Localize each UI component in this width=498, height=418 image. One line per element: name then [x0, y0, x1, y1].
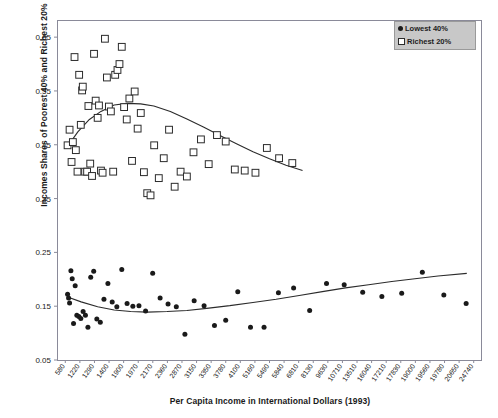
x-tick-label: 1220 [66, 362, 81, 379]
data-point-richest-20 [110, 168, 117, 175]
x-tick-label: 3780 [212, 362, 227, 379]
data-point-richest-20 [94, 114, 101, 121]
x-tick-label: 1290 [81, 362, 96, 379]
data-point-lowest-40 [464, 301, 469, 306]
data-point-richest-20 [171, 183, 178, 190]
data-point-lowest-40 [360, 290, 365, 295]
data-point-lowest-40 [114, 304, 119, 309]
data-point-richest-20 [96, 102, 103, 109]
data-point-richest-20 [116, 61, 123, 68]
data-point-richest-20 [151, 142, 158, 149]
data-point-lowest-40 [262, 325, 267, 330]
open-square-icon [398, 38, 405, 45]
data-point-richest-20 [77, 121, 84, 128]
data-point-lowest-40 [276, 290, 281, 295]
data-point-richest-20 [131, 88, 138, 95]
data-point-richest-20 [99, 169, 106, 176]
x-tick-label: 3350 [197, 362, 212, 379]
data-point-richest-20 [89, 173, 96, 180]
filled-circle-icon [398, 26, 403, 31]
data-point-lowest-40 [125, 301, 130, 306]
data-point-richest-20 [263, 145, 270, 152]
x-tick-label: 2170 [139, 362, 154, 379]
data-point-richest-20 [72, 147, 79, 154]
data-point-lowest-40 [235, 289, 240, 294]
x-tick-label: 580 [54, 362, 66, 376]
x-tick-label: 5160 [241, 362, 256, 379]
data-point-lowest-40 [73, 283, 78, 288]
x-tick-label: 3150 [183, 362, 198, 379]
data-point-richest-20 [137, 110, 144, 117]
data-point-lowest-40 [174, 304, 179, 309]
y-tick-label: 0.15 [35, 302, 51, 311]
data-point-lowest-40 [399, 291, 404, 296]
data-point-richest-20 [160, 155, 167, 162]
data-point-richest-20 [155, 175, 162, 182]
x-tick-label: 1970 [124, 362, 139, 379]
x-tick-label: 4100 [226, 362, 241, 379]
data-point-lowest-40 [212, 323, 217, 328]
data-point-richest-20 [102, 35, 109, 42]
data-point-richest-20 [85, 103, 92, 110]
data-point-richest-20 [231, 166, 238, 173]
data-point-richest-20 [71, 54, 78, 61]
data-point-richest-20 [66, 126, 73, 133]
data-point-richest-20 [91, 50, 98, 57]
data-point-richest-20 [198, 136, 205, 143]
data-point-lowest-40 [85, 325, 90, 330]
data-point-lowest-40 [291, 285, 296, 290]
data-point-lowest-40 [101, 297, 106, 302]
data-point-lowest-40 [420, 270, 425, 275]
legend-item-richest-20: Richest 20% [395, 35, 475, 48]
x-tick-label: 2870 [168, 362, 183, 379]
data-point-lowest-40 [78, 316, 83, 321]
data-point-lowest-40 [223, 318, 228, 323]
data-point-lowest-40 [166, 302, 171, 307]
data-point-lowest-40 [324, 281, 329, 286]
x-tick-label: 8130 [299, 362, 314, 379]
data-point-lowest-40 [192, 298, 197, 303]
data-point-lowest-40 [307, 308, 312, 313]
data-point-richest-20 [222, 138, 229, 145]
data-point-lowest-40 [110, 299, 115, 304]
x-axis-title: Per Capita Income in International Dolla… [60, 396, 480, 406]
data-point-lowest-40 [98, 320, 103, 325]
data-point-richest-20 [123, 116, 130, 123]
data-point-richest-20 [68, 159, 75, 166]
legend-label-richest-20: Richest 20% [407, 37, 451, 46]
x-tick-label: 1900 [110, 362, 125, 379]
data-point-lowest-40 [119, 267, 124, 272]
legend-label-lowest-40: Lowest 40% [405, 24, 448, 33]
data-point-richest-20 [276, 155, 283, 162]
data-point-richest-20 [121, 104, 128, 111]
data-point-lowest-40 [441, 292, 446, 297]
x-axis-ticks: 5801220129014001900197021702360287031503… [54, 360, 475, 383]
data-point-lowest-40 [136, 303, 141, 308]
data-point-richest-20 [126, 95, 133, 102]
legend-item-lowest-40: Lowest 40% [395, 22, 475, 35]
data-point-richest-20 [147, 192, 154, 199]
x-tick-label: 2360 [154, 362, 169, 379]
data-point-lowest-40 [202, 303, 207, 308]
y-tick-label: 0.25 [35, 248, 51, 257]
data-point-lowest-40 [158, 296, 163, 301]
data-point-richest-20 [118, 43, 125, 50]
x-tick-label: 1400 [95, 362, 110, 379]
data-point-lowest-40 [83, 313, 88, 318]
x-tick-label: 5490 [256, 362, 271, 379]
data-point-lowest-40 [70, 276, 75, 281]
chart-container: 0.050.150.250.350.450.550.65 58012201290… [0, 0, 498, 418]
data-point-lowest-40 [143, 309, 148, 314]
x-tick-label: 6810 [285, 362, 300, 379]
data-point-lowest-40 [66, 296, 71, 301]
data-point-richest-20 [190, 149, 197, 156]
data-point-lowest-40 [105, 281, 110, 286]
x-tick-label: 5840 [270, 362, 285, 379]
y-axis-title: Incomes Shares of Poorest 40% and Riches… [39, 0, 49, 245]
data-point-richest-20 [289, 160, 296, 167]
data-point-lowest-40 [248, 325, 253, 330]
data-point-lowest-40 [379, 294, 384, 299]
y-tick-label: 0.05 [35, 356, 51, 365]
data-point-richest-20 [87, 160, 94, 167]
data-point-richest-20 [104, 74, 111, 81]
